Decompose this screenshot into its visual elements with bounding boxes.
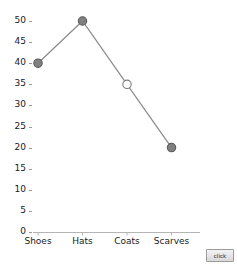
- click-button[interactable]: click: [206, 249, 234, 262]
- data-line: [38, 21, 172, 148]
- chart-screen: 50454035302520151050 ShoesHatsCoatsScarv…: [0, 0, 237, 266]
- plot-canvas: [0, 0, 237, 266]
- data-point-coats[interactable]: [123, 80, 131, 88]
- line-chart: 50454035302520151050 ShoesHatsCoatsScarv…: [0, 0, 237, 266]
- data-point-markers: [34, 17, 176, 152]
- x-tick-label-scarves: Scarves: [142, 236, 202, 246]
- data-point-hats[interactable]: [78, 17, 86, 25]
- data-point-shoes[interactable]: [34, 59, 42, 67]
- data-point-scarves[interactable]: [167, 143, 175, 151]
